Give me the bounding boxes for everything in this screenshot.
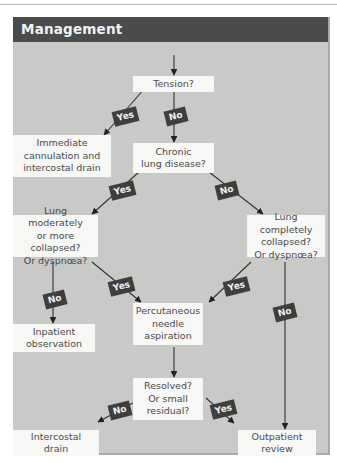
page-top-rule	[0, 4, 337, 5]
node-lung-moderately-collapsed: Lung moderately or more collapsed? Or dy…	[13, 215, 98, 257]
management-panel: Management	[13, 17, 330, 455]
node-inpatient-observation: Inpatient observation	[13, 324, 95, 352]
node-intercostal-drain: Intercostal drain	[13, 430, 99, 456]
node-outpatient-review: Outpatient review	[238, 430, 316, 456]
node-tension: Tension?	[133, 76, 214, 92]
node-lung-completely-collapsed: Lung completely collapsed? Or dyspnœa?	[247, 215, 325, 257]
node-immediate-drain: Immediate cannulation and intercostal dr…	[13, 135, 111, 177]
node-resolved: Resolved? Or small residual?	[133, 378, 203, 420]
node-needle-aspiration: Percutaneous needle aspiration	[133, 303, 203, 345]
node-chronic-lung-disease: Chronic lung disease?	[133, 143, 214, 173]
